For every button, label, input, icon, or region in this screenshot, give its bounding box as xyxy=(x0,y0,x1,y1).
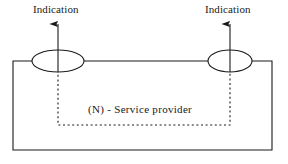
service-provider-region-path xyxy=(58,61,230,125)
indication-label-left: Indication xyxy=(33,4,79,15)
diagram-graphics xyxy=(0,0,288,164)
service-provider-label: (N) - Service provider xyxy=(88,104,192,115)
diagram-canvas: Indication Indication (N) - Service prov… xyxy=(0,0,288,164)
service-provider-region xyxy=(58,61,230,125)
indication-label-right: Indication xyxy=(205,4,251,15)
